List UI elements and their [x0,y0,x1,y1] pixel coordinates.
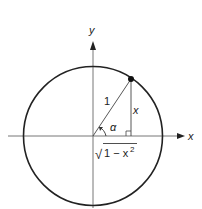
opposite-label: x [132,104,139,116]
right-angle-marker [126,131,131,136]
x-axis-arrow-icon [177,133,185,139]
unit-circle-diagram: x y 1 x α √ 1 − x 2 [0,0,202,209]
point-on-circle [128,76,134,82]
sqrt-sign: √ [95,147,103,162]
y-axis-arrow-icon [90,41,96,50]
adjacent-exponent: 2 [130,145,135,154]
y-axis-label: y [88,24,96,36]
angle-label: α [110,121,117,133]
adjacent-label: √ 1 − x 2 [95,144,137,163]
hypotenuse-label: 1 [104,95,110,107]
x-axis-label: x [187,130,194,142]
adjacent-expression: 1 − x [104,147,129,159]
